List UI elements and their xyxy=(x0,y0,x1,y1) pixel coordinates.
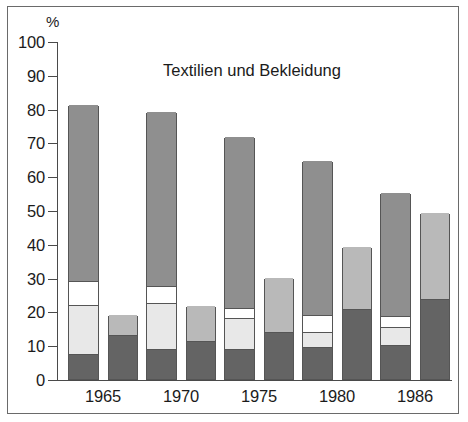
y-tick-40 xyxy=(48,245,57,246)
y-tick-label-30: 30 xyxy=(0,271,45,288)
segment-1986-2-1 xyxy=(421,299,449,379)
segment-1980-1-1 xyxy=(303,347,332,379)
segment-1986-1-2 xyxy=(381,327,410,346)
segment-1965-1-3 xyxy=(69,281,98,305)
segment-1980-1-2 xyxy=(303,332,332,347)
chart-title: Textilien und Bekleidung xyxy=(0,62,468,79)
y-tick-10 xyxy=(48,346,57,347)
segment-1980-2-2 xyxy=(343,247,371,309)
y-tick-label-10: 10 xyxy=(0,338,45,355)
segment-1970-2-1 xyxy=(187,341,215,379)
y-tick-label-60: 60 xyxy=(0,169,45,186)
segment-1986-2-2 xyxy=(421,213,449,299)
y-tick-label-70: 70 xyxy=(0,135,45,152)
bar-1965-1 xyxy=(68,106,99,380)
segment-1980-1-3 xyxy=(303,315,332,332)
y-tick-70 xyxy=(48,143,57,144)
segment-1965-2-1 xyxy=(109,335,137,379)
segment-1980-1-4 xyxy=(303,161,332,315)
y-tick-0 xyxy=(48,380,57,381)
segment-1965-1-1 xyxy=(69,354,98,379)
y-tick-30 xyxy=(48,279,57,280)
y-tick-label-40: 40 xyxy=(0,237,45,254)
y-tick-90 xyxy=(48,76,57,77)
y-tick-label-50: 50 xyxy=(0,203,45,220)
segment-1986-1-3 xyxy=(381,316,410,326)
bar-1980-1 xyxy=(302,162,333,380)
segment-1970-1-1 xyxy=(147,349,176,379)
y-tick-label-20: 20 xyxy=(0,304,45,321)
segment-1975-1-2 xyxy=(225,318,254,348)
segment-1975-1-4 xyxy=(225,137,254,308)
bar-1975-1 xyxy=(224,138,255,380)
segment-1975-1-3 xyxy=(225,308,254,318)
y-tick-label-0: 0 xyxy=(0,372,45,389)
segment-1986-1-1 xyxy=(381,345,410,379)
bar-1970-2 xyxy=(186,307,216,380)
bar-1986-1 xyxy=(380,194,411,380)
segment-1975-1-1 xyxy=(225,349,254,379)
segment-1965-2-2 xyxy=(109,315,137,335)
y-tick-label-80: 80 xyxy=(0,102,45,119)
bar-1980-2 xyxy=(342,248,372,380)
y-axis-unit-label: % xyxy=(46,14,59,29)
y-tick-60 xyxy=(48,177,57,178)
segment-1965-1-4 xyxy=(69,105,98,281)
y-tick-100 xyxy=(48,42,57,43)
segment-1970-1-3 xyxy=(147,286,176,303)
plot-area: % Textilien und Bekleidung 1009080706050… xyxy=(0,0,468,422)
bar-1986-2 xyxy=(420,214,450,380)
y-tick-20 xyxy=(48,312,57,313)
segment-1986-1-4 xyxy=(381,193,410,316)
y-tick-50 xyxy=(48,211,57,212)
segment-1975-2-1 xyxy=(265,332,293,379)
segment-1975-2-2 xyxy=(265,278,293,332)
segment-1970-1-4 xyxy=(147,112,176,286)
bar-1970-1 xyxy=(146,113,177,380)
segment-1965-1-2 xyxy=(69,305,98,354)
segment-1970-2-2 xyxy=(187,306,215,340)
y-axis-line xyxy=(57,42,58,381)
segment-1980-2-1 xyxy=(343,309,371,379)
x-label-1986: 1986 xyxy=(355,388,468,405)
y-tick-label-90: 90 xyxy=(0,68,45,85)
bar-1965-2 xyxy=(108,316,138,380)
y-tick-label-100: 100 xyxy=(0,34,45,51)
y-tick-80 xyxy=(48,110,57,111)
chart-figure: % Textilien und Bekleidung 1009080706050… xyxy=(0,0,468,422)
segment-1970-1-2 xyxy=(147,303,176,349)
bar-1975-2 xyxy=(264,279,294,380)
x-axis-line xyxy=(57,380,452,381)
